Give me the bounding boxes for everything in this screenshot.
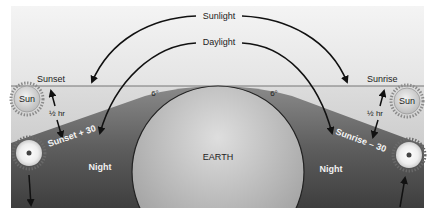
sun-label-right: Sun	[399, 96, 415, 106]
angle-label-left: 6°	[151, 89, 159, 98]
night-label-left: Night	[89, 162, 112, 172]
daylight-label: Daylight	[203, 37, 236, 47]
earth-label: EARTH	[203, 152, 233, 162]
sunlight-label: Sunlight	[203, 11, 236, 21]
sun-label-left: Sun	[19, 94, 35, 104]
twilight-diagram: EARTH Sunlight Daylight 6° 6° Sunset Sun…	[0, 0, 437, 222]
half-hour-label-right: ½ hr	[367, 109, 383, 118]
sunset-label: Sunset	[37, 74, 66, 84]
sunrise-label: Sunrise	[367, 74, 398, 84]
half-hour-label-left: ½ hr	[49, 109, 65, 118]
night-label-right: Night	[320, 164, 343, 174]
angle-label-right: 6°	[270, 89, 278, 98]
